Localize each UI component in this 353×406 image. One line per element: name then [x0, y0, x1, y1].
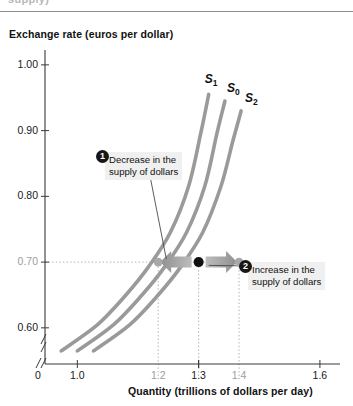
x-tick-label-1.3: 1.3	[182, 369, 216, 381]
curve-label-S2: S2	[245, 91, 258, 107]
curve-label-base-S0: S	[227, 81, 235, 95]
annotation-1-callout: Decrease in the supply of dollars	[105, 152, 182, 180]
x-tick-label-1.2: 1.2	[141, 369, 175, 381]
y-tick-label-0.80: 0.80	[4, 189, 38, 201]
point-on-S1	[154, 258, 163, 267]
curve-label-base-S1: S	[205, 72, 213, 86]
curve-label-S1: S1	[205, 72, 218, 88]
curve-label-subscript-S0: 0	[235, 87, 240, 97]
x-tick-label-0: 0	[21, 369, 55, 381]
supply-curves	[61, 94, 241, 351]
rightward-shift-arrow	[206, 251, 237, 273]
annotation-2-callout: Increase in the supply of dollars	[248, 262, 325, 290]
annotation-1-line1: Decrease in the	[109, 154, 178, 166]
curve-label-S0: S0	[227, 81, 240, 97]
x-tick-label-1.6: 1.6	[303, 369, 337, 381]
y-tick-label-1.00: 1.00	[4, 58, 38, 70]
x-tick-label-1.4: 1.4	[222, 369, 256, 381]
figure-container: supply) Exchange rate (euros per dollar)…	[0, 0, 353, 406]
supply-curve-plot	[0, 0, 353, 406]
y-tick-label-0.60: 0.60	[4, 321, 38, 333]
annotation-2-badge: 2	[239, 260, 252, 273]
curve-S1	[61, 94, 209, 351]
y-tick-label-0.90: 0.90	[4, 124, 38, 136]
x-tick-label-1.0: 1.0	[60, 369, 94, 381]
curve-label-base-S2: S	[245, 91, 253, 105]
curve-label-subscript-S2: 2	[253, 97, 258, 107]
leader-line-1	[150, 176, 166, 259]
annotation-2-line1: Increase in the	[252, 264, 321, 276]
leftward-shift-arrow	[160, 251, 191, 273]
guide-lines	[45, 262, 239, 376]
annotation-1-badge: 1	[96, 150, 109, 163]
annotation-1-line2: supply of dollars	[109, 166, 178, 178]
curve-S0	[77, 101, 225, 351]
y-tick-label-0.70: 0.70	[4, 255, 38, 267]
annotation-2-line2: supply of dollars	[252, 276, 321, 288]
curve-S2	[94, 111, 242, 351]
curve-label-subscript-S1: 1	[213, 79, 218, 89]
annotation-leader-lines	[150, 176, 252, 266]
axes	[36, 50, 340, 368]
equilibrium-original	[194, 257, 204, 267]
